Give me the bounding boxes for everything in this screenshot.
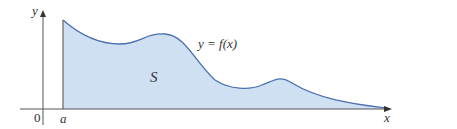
a-label: a [60,111,67,127]
region-s [63,20,385,109]
region-label: S [150,69,158,86]
y-axis-arrow [40,10,46,17]
y-axis-label: y [32,3,38,19]
x-axis-label: x [384,110,390,126]
curve-label: y = f(x) [198,36,237,52]
origin-label: 0 [34,110,41,126]
